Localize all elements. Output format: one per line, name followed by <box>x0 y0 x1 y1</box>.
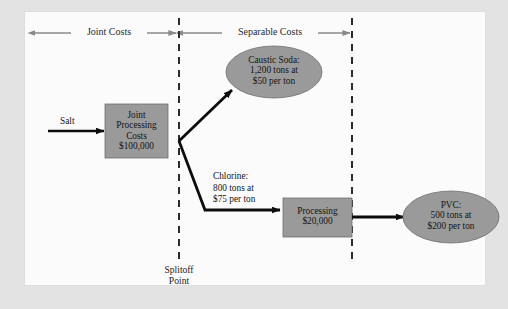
processing-shape <box>283 198 352 237</box>
salt-label: Salt <box>60 116 74 126</box>
chlorine-flow-label: Chlorine: 800 tons at $75 per ton <box>213 171 255 206</box>
caustic-soda-shape <box>226 46 322 98</box>
diagram-canvas <box>0 0 508 309</box>
splitoff-point-caption: Splitoff Point <box>149 264 209 287</box>
caustic-soda-branch-arrow <box>179 90 232 141</box>
pvc-shape <box>403 191 499 243</box>
band-label-separable-costs: Separable Costs <box>222 26 318 37</box>
joint-cost-diagram: Joint Costs Separable Costs Salt Joint P… <box>0 0 508 309</box>
joint-processing-costs-shape <box>105 104 168 158</box>
band-label-joint-costs: Joint Costs <box>71 26 147 37</box>
